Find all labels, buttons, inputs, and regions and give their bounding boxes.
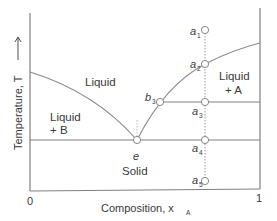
y-axis-label: Temperature, T [12,75,24,150]
point-a2 [201,60,208,67]
region-liquid-label: Liquid [85,76,116,88]
label-a1-sub: 1 [197,32,201,39]
label-a3-sub: 3 [199,112,203,119]
label-a2-sub: 2 [197,65,201,72]
label-b3-sub: 3 [152,98,156,105]
label-a4-sub: 4 [199,149,203,156]
region-liquid-b-label-1: Liquid [50,111,81,123]
point-a3 [201,98,208,105]
label-a3: a [192,105,198,117]
phase-diagram: Liquid Liquid + A Liquid + B Solid e b 3… [0,0,277,221]
x-tick-1: 1 [256,192,262,204]
point-e [133,136,140,143]
point-a4 [201,136,208,143]
label-a5-sub: 5 [199,181,203,188]
label-a5: a [192,174,198,186]
region-liquid-b-label-2: + B [50,124,68,136]
label-a2: a [190,58,196,70]
label-a1: a [190,25,196,37]
point-a1 [201,26,208,33]
point-b3 [156,98,163,105]
x-axis-label-sub: A [186,209,191,216]
liquidus-b-curve [30,72,137,140]
label-e: e [133,150,139,162]
label-b3: b [145,91,151,103]
x-tick-0: 0 [27,195,33,207]
region-solid-label: Solid [122,165,148,177]
label-a4: a [192,142,198,154]
x-axis [30,189,260,191]
region-liquid-a-label-1: Liquid [219,70,250,82]
region-liquid-a-label-2: + A [225,84,242,96]
x-axis-label: Composition, x [101,202,174,214]
